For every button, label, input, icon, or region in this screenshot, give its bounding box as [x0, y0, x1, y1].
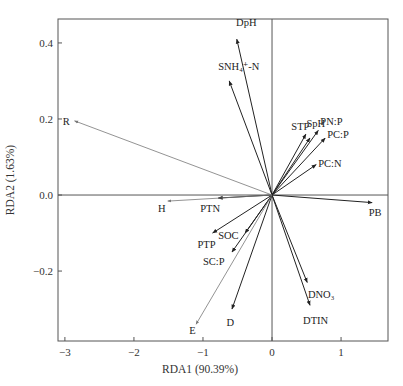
y-tick-label: 0.4 — [39, 37, 53, 49]
vector-r: R — [63, 116, 272, 195]
vector-e: E — [189, 195, 272, 336]
y-tick-label: 0.0 — [39, 189, 53, 201]
biplot-vectors: DpHSNH₄⁺-NSTPSpHPN:PPC:PPC:NPBPTNPTPSOCS… — [63, 17, 382, 336]
vector-arrow — [272, 130, 318, 195]
vector-stp: STP — [272, 121, 310, 195]
vector-arrow — [213, 195, 272, 233]
vector-dtin: DTIN — [272, 195, 329, 326]
y-axis-title: RDA2 (1.63%) — [4, 145, 17, 215]
vector-ptn: PTN — [200, 195, 272, 214]
vector-label: SNH₄⁺-N — [218, 61, 260, 72]
y-tick-label: −0.2 — [33, 265, 53, 277]
vector-arrow — [232, 195, 272, 309]
vector-label: DNO₃ — [308, 289, 335, 300]
y-tick-label: 0.2 — [39, 113, 53, 125]
vector-label: SC:P — [203, 256, 225, 267]
vector-label: E — [189, 325, 195, 336]
vector-label: DTIN — [303, 315, 328, 326]
vector-label: DpH — [236, 17, 257, 28]
vector-arrow — [75, 121, 272, 195]
vector-label: R — [63, 116, 70, 127]
vector-arrow — [272, 195, 372, 203]
vector-arrow — [168, 195, 272, 201]
vector-label: PN:P — [320, 116, 342, 127]
vector-label: PC:P — [327, 129, 349, 140]
x-tick-label: −3 — [59, 346, 71, 358]
vector-snh-n: SNH₄⁺-N — [218, 61, 272, 195]
vector-dno-: DNO₃ — [272, 195, 335, 300]
vector-label: D — [226, 317, 234, 328]
vector-label: SOC — [218, 230, 238, 241]
vector-arrow — [232, 195, 272, 252]
vector-pb: PB — [272, 195, 381, 218]
vector-arrow — [272, 195, 307, 282]
vector-dph: DpH — [236, 17, 272, 195]
x-tick-label: 0 — [269, 346, 275, 358]
vector-arrow — [272, 165, 316, 195]
x-axis-ticks: −3−2−101 — [59, 337, 344, 358]
x-tick-label: 1 — [338, 346, 344, 358]
vector-label: PTN — [200, 203, 220, 214]
vector-label: H — [158, 203, 166, 214]
vector-label: PTP — [197, 239, 215, 250]
x-tick-label: −2 — [128, 346, 140, 358]
x-axis-title: RDA1 (90.39%) — [162, 363, 238, 376]
vector-label: PB — [369, 207, 382, 218]
vector-arrow — [272, 195, 310, 305]
vector-label: PC:N — [318, 158, 342, 169]
x-tick-label: −1 — [197, 346, 209, 358]
rda-biplot: −3−2−101 −0.20.00.20.4 DpHSNH₄⁺-NSTPSpHP… — [0, 0, 403, 386]
